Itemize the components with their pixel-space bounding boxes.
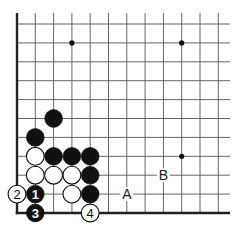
white-stone [26, 147, 44, 165]
black-stone [45, 110, 63, 128]
go-board: AB 2134 [0, 0, 232, 234]
black-stone [81, 185, 99, 203]
black-stone [26, 129, 44, 147]
white-stone [63, 185, 81, 203]
black-stone [81, 147, 99, 165]
move-number: 4 [87, 206, 94, 221]
white-stone [45, 166, 63, 184]
point-label-b: B [159, 167, 168, 183]
black-stone [81, 166, 99, 184]
point-label-a: A [122, 186, 132, 202]
black-stone-1: 1 [26, 185, 44, 203]
move-number: 3 [32, 206, 39, 221]
white-stone-2: 2 [8, 185, 26, 203]
black-stone [45, 147, 63, 165]
white-stone [63, 166, 81, 184]
move-number: 2 [13, 187, 20, 202]
star-point [179, 154, 184, 159]
move-number: 1 [32, 187, 39, 202]
star-point [69, 40, 74, 45]
black-stone-3: 3 [26, 204, 44, 222]
black-stone [63, 147, 81, 165]
white-stone [26, 166, 44, 184]
star-point [179, 40, 184, 45]
white-stone-4: 4 [81, 204, 99, 222]
